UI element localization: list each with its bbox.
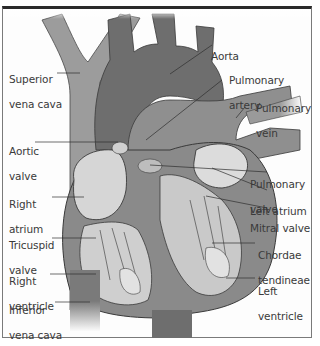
label-left-ventricle: Left ventricle: [258, 272, 303, 335]
right-atrium-shape: [74, 150, 127, 220]
left-atrium-shape: [194, 144, 248, 188]
aortic-valve-shape: [112, 142, 128, 154]
label-inferior-vena-cava: Inferior vena cava: [9, 291, 62, 346]
label-pulmonary-vein: Pulmonary vein: [256, 89, 311, 152]
pulmonary-valve-shape: [138, 159, 162, 173]
inferior-vena-cava-shape: [70, 270, 100, 332]
label-superior-vena-cava: Superior vena cava: [9, 60, 62, 123]
